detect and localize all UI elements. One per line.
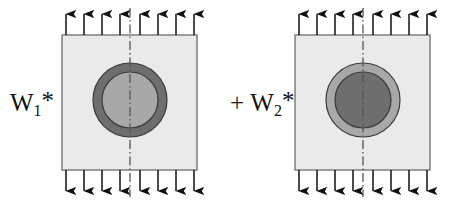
weight-label-right-subscript: 2 (274, 102, 282, 119)
panel-left: W1* (0, 0, 227, 203)
superposition-figure: W1* (0, 0, 454, 203)
panel-right: + W2* (227, 0, 454, 203)
weight-label-right-star: * (282, 87, 295, 114)
weight-label-left: W1* (10, 88, 54, 119)
weight-label-left-subscript: 1 (34, 102, 42, 119)
weight-label-right: + W2* (230, 88, 294, 119)
weight-label-left-star: * (42, 87, 55, 114)
weight-label-left-base: W (10, 89, 34, 116)
weight-label-right-prefix: + (230, 89, 244, 116)
weight-label-right-base: W (250, 89, 274, 116)
